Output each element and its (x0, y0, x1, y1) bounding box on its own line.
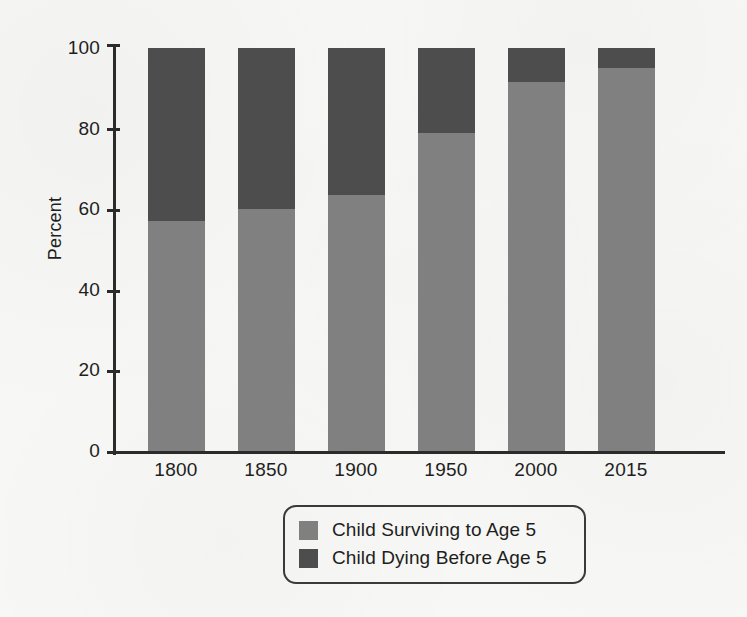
y-tick-label-60: 60 (56, 198, 100, 220)
legend-swatch-dying-icon (299, 549, 318, 568)
chart-legend: Child Surviving to Age 5 Child Dying Bef… (283, 505, 586, 584)
bar-group-1900 (328, 48, 385, 451)
bar-segment-1950-dying (418, 48, 475, 133)
bar-group-2015 (598, 48, 655, 451)
x-axis-line (110, 451, 725, 454)
bar-segment-1850-surviving (238, 209, 295, 451)
legend-label-surviving: Child Surviving to Age 5 (332, 519, 536, 541)
legend-item-dying: Child Dying Before Age 5 (299, 544, 570, 572)
bar-segment-1800-dying (148, 48, 205, 221)
y-tick-label-40: 40 (56, 279, 100, 301)
bar-segment-1950-surviving (418, 133, 475, 451)
bar-segment-1900-dying (328, 48, 385, 195)
legend-label-dying: Child Dying Before Age 5 (332, 547, 547, 569)
legend-item-surviving: Child Surviving to Age 5 (299, 516, 570, 544)
y-tick-label-20: 20 (56, 359, 100, 381)
x-tick-label-2015: 2015 (571, 459, 681, 481)
y-tick-label-100: 100 (56, 37, 100, 59)
bar-segment-1800-surviving (148, 221, 205, 451)
y-tick-label-group: 100 80 60 40 20 0 (48, 0, 100, 617)
bar-group-1950 (418, 48, 475, 451)
chart-container: Percent 100 80 60 40 20 0 1800 1850 1900… (0, 0, 747, 617)
bar-segment-2000-surviving (508, 82, 565, 451)
plot-area (113, 48, 673, 451)
bar-group-1800 (148, 48, 205, 451)
bar-group-2000 (508, 48, 565, 451)
bar-segment-1850-dying (238, 48, 295, 209)
legend-swatch-surviving-icon (299, 521, 318, 540)
y-tick-label-0: 0 (56, 440, 100, 462)
bar-segment-2015-surviving (598, 68, 655, 451)
bar-segment-1900-surviving (328, 195, 385, 451)
y-tick-label-80: 80 (56, 118, 100, 140)
bar-segment-2000-dying (508, 48, 565, 82)
bar-group-1850 (238, 48, 295, 451)
bar-segment-2015-dying (598, 48, 655, 68)
y-axis-cap-top (107, 44, 120, 47)
